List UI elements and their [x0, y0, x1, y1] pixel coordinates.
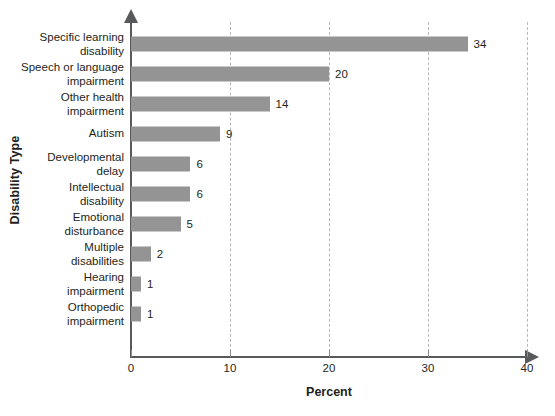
bar-and-value: 14 [131, 97, 288, 112]
bar[interactable] [131, 37, 468, 52]
bar-value-label: 6 [196, 158, 202, 170]
bar-value-label: 1 [147, 308, 153, 320]
category-label: Developmentaldelay [14, 151, 124, 178]
bar-and-value: 2 [131, 247, 163, 262]
bar-value-label: 6 [196, 188, 202, 200]
category-label: Autism [14, 127, 124, 141]
category-label: Speech or languageimpairment [14, 61, 124, 88]
bar[interactable] [131, 127, 220, 142]
bar-row: Other healthimpairment14 [0, 89, 555, 119]
category-label: Hearingimpairment [14, 271, 124, 298]
bar[interactable] [131, 157, 190, 172]
category-label: Specific learningdisability [14, 31, 124, 58]
bar-row: Developmentaldelay6 [0, 149, 555, 179]
category-label: Emotionaldisturbance [14, 211, 124, 238]
bar-value-label: 2 [157, 248, 163, 260]
x-tick-label-30: 30 [408, 362, 448, 374]
bar-row: Autism9 [0, 119, 555, 149]
bar-row: Intellectualdisability6 [0, 179, 555, 209]
bar[interactable] [131, 67, 329, 82]
bar[interactable] [131, 217, 181, 232]
bar-and-value: 34 [131, 37, 486, 52]
category-label: Intellectualdisability [14, 181, 124, 208]
x-tick-label-40: 40 [507, 362, 547, 374]
bar-and-value: 20 [131, 67, 348, 82]
x-tick-10 [230, 350, 231, 357]
bar-row: Specific learningdisability34 [0, 29, 555, 59]
bar-value-label: 5 [187, 218, 193, 230]
bar-value-label: 14 [276, 98, 289, 110]
x-tick-40 [527, 350, 528, 357]
y-axis-arrow-icon [124, 9, 138, 23]
bar-value-label: 1 [147, 278, 153, 290]
bar-row: Speech or languageimpairment20 [0, 59, 555, 89]
x-tick-label-20: 20 [309, 362, 349, 374]
bar[interactable] [131, 307, 141, 322]
bar-value-label: 9 [226, 128, 232, 140]
bar-and-value: 6 [131, 157, 203, 172]
category-label: Other healthimpairment [14, 91, 124, 118]
bar[interactable] [131, 247, 151, 262]
bar-value-label: 34 [474, 38, 487, 50]
x-tick-0 [131, 350, 132, 357]
x-tick-30 [428, 350, 429, 357]
bar-and-value: 6 [131, 187, 203, 202]
bar-and-value: 1 [131, 277, 153, 292]
bar-row: Orthopedicimpairment1 [0, 299, 555, 329]
bar[interactable] [131, 277, 141, 292]
x-tick-label-10: 10 [210, 362, 250, 374]
bar-and-value: 5 [131, 217, 193, 232]
bar-and-value: 1 [131, 307, 153, 322]
category-label: Orthopedicimpairment [14, 301, 124, 328]
bar-value-label: 20 [335, 68, 348, 80]
bar[interactable] [131, 187, 190, 202]
bar-row: Emotionaldisturbance5 [0, 209, 555, 239]
bar-row: Multipledisabilities2 [0, 239, 555, 269]
bar[interactable] [131, 97, 270, 112]
x-axis-line [130, 356, 526, 358]
bar-chart: Disability Type Specific learningdisabil… [0, 0, 555, 416]
bar-row: Hearingimpairment1 [0, 269, 555, 299]
x-axis-title: Percent [131, 385, 527, 399]
x-tick-label-0: 0 [111, 362, 151, 374]
category-label: Multipledisabilities [14, 241, 124, 268]
bar-and-value: 9 [131, 127, 233, 142]
x-tick-20 [329, 350, 330, 357]
